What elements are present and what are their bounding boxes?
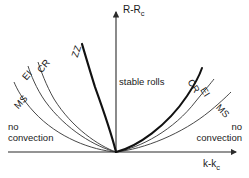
x-axis-label: k-kc: [203, 158, 220, 173]
region-label-no-convection-right: noconvection: [178, 122, 242, 144]
stability-diagram-canvas: [0, 0, 249, 178]
region-label-no-convection-left: noconvection: [8, 122, 53, 144]
y-axis-label: R-Rc: [123, 4, 145, 19]
figure-root: R-Rc k-kc stable rolls noconvection noco…: [0, 0, 249, 178]
region-label-stable-rolls: stable rolls: [119, 77, 164, 88]
